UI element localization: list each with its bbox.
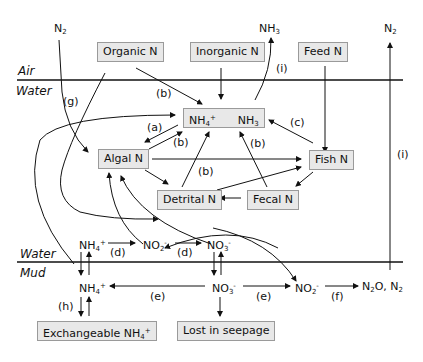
process-label-i-nh3: (i) [276, 62, 288, 75]
process-label-c: (c) [290, 116, 305, 129]
box-organic-n: Organic N [97, 42, 164, 62]
species-nh3-top: NH3 [259, 22, 280, 39]
process-label-e-left: (e) [150, 290, 165, 303]
species-water-no3: NO3- [207, 237, 231, 256]
box-exchangeable-nh4: Exchangeable NH4+ [37, 321, 157, 341]
box-inorganic-n: Inorganic N [190, 42, 265, 62]
box-feed-n: Feed N [298, 42, 348, 62]
nh4-text: NH [189, 114, 206, 127]
species-n2-right: N2 [384, 22, 397, 39]
box-fecal-n: Fecal N [247, 190, 299, 210]
species-mud-no2: NO2- [295, 280, 319, 299]
process-label-b-fecal: (b) [250, 137, 266, 150]
box-nh4-nh3: NH4+NH3 [183, 108, 265, 128]
process-label-f: (f) [331, 290, 343, 303]
zone-label-water-bottom: Water [20, 247, 56, 261]
process-label-b-detrital: (b) [198, 165, 214, 178]
box-detrital-n: Detrital N [157, 190, 222, 210]
zone-label-mud: Mud [20, 266, 46, 280]
process-label-a: (a) [147, 121, 162, 134]
zone-label-water-top: Water [16, 84, 52, 98]
process-label-b-organic: (b) [156, 87, 172, 100]
nh3-text: NH [238, 114, 255, 127]
species-mud-nh4: NH4+ [79, 280, 106, 299]
species-mud-no3: NO3- [212, 280, 236, 299]
species-water-no2: NO2- [143, 237, 167, 256]
process-label-h: (h) [58, 300, 74, 313]
species-n2o-n2: N2O, N2 [362, 280, 403, 297]
species-n2-left: N2 [54, 22, 67, 39]
process-label-d-2: (d) [177, 246, 193, 259]
process-label-i-n2: (i) [397, 148, 409, 161]
species-water-nh4: NH4+ [79, 237, 106, 256]
process-label-b-algal: (b) [173, 136, 189, 149]
box-fish-n: Fish N [309, 150, 354, 170]
box-algal-n: Algal N [98, 149, 149, 169]
process-label-g: (g) [63, 95, 79, 108]
process-label-d-1: (d) [110, 246, 126, 259]
process-label-e-right: (e) [256, 290, 271, 303]
zone-label-air: Air [18, 64, 34, 78]
box-lost-in-seepage: Lost in seepage [177, 321, 275, 341]
